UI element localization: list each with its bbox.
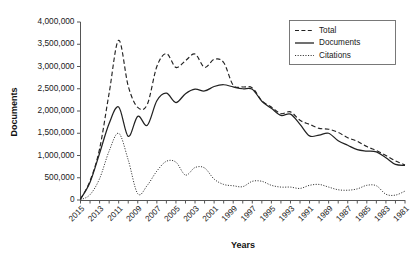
y-axis-tick-label: 4,000,000 — [38, 16, 75, 26]
y-axis-title: Documents — [9, 87, 19, 136]
y-axis-tick-label: 500,000 — [45, 172, 75, 182]
y-axis-tick-label: 1,500,000 — [38, 127, 75, 137]
y-axis-tick-label: 1,000,000 — [38, 150, 75, 160]
x-axis-tick-label: 2005 — [163, 204, 183, 224]
series-line-documents — [81, 85, 406, 199]
legend-label-documents: Documents — [319, 38, 360, 47]
line-chart: 4,000,0003,500,0003,000,0002,500,0002,00… — [0, 0, 416, 256]
x-axis-tick-label: 2003 — [182, 204, 202, 224]
y-axis-ticks — [77, 22, 81, 200]
x-axis-tick-label: 2009 — [124, 204, 144, 224]
x-axis-tick-label: 1981 — [392, 204, 412, 224]
legend-label-total: Total — [319, 26, 336, 35]
x-axis-tick-labels: 2015201320112009200720052003200119991997… — [67, 204, 411, 224]
x-axis-tick-label: 2015 — [67, 204, 87, 224]
x-axis-tick-label: 1997 — [239, 204, 259, 224]
y-axis-tick-label: 2,000,000 — [38, 105, 75, 115]
y-axis-tick-label: 2,500,000 — [38, 83, 75, 93]
series-line-citations — [81, 133, 406, 200]
y-axis-tick-label: 3,000,000 — [38, 61, 75, 71]
x-axis-tick-label: 2007 — [144, 204, 164, 224]
x-axis-tick-label: 2011 — [106, 204, 125, 223]
chart-legend: Total Documents Citations — [290, 21, 396, 65]
y-axis-tick-label: 3,500,000 — [38, 38, 75, 48]
y-axis-tick-label: 0 — [70, 194, 75, 204]
x-axis-tick-label: 2013 — [86, 204, 106, 224]
x-axis-tick-label: 1999 — [220, 204, 240, 224]
x-axis-tick-label: 1985 — [353, 204, 373, 224]
y-axis-tick-labels: 4,000,0003,500,0003,000,0002,500,0002,00… — [38, 16, 75, 204]
legend-label-citations: Citations — [319, 51, 351, 60]
x-axis-tick-label: 1991 — [296, 204, 316, 224]
chart-container: 4,000,0003,500,0003,000,0002,500,0002,00… — [0, 0, 416, 256]
x-axis-tick-label: 2001 — [201, 204, 221, 224]
x-axis-tick-label: 1989 — [315, 204, 335, 224]
x-axis-tick-label: 1987 — [334, 204, 354, 224]
x-axis-tick-label: 1995 — [258, 204, 278, 224]
x-axis-tick-label: 1993 — [277, 204, 297, 224]
x-axis-title: Years — [231, 240, 255, 250]
x-axis-tick-label: 1983 — [373, 204, 393, 224]
